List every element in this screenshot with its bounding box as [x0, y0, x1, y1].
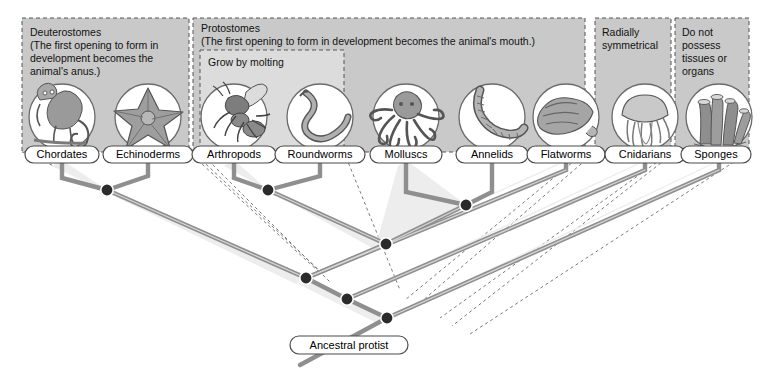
taxon-label-text: Sponges [694, 148, 738, 160]
taxon-label-text: Chordates [37, 148, 88, 160]
taxon-label-text: Cnidarians [619, 148, 672, 160]
taxon-label-echinoderms[interactable]: Echinoderms [103, 146, 193, 163]
taxon-label-roundworms[interactable]: Roundworms [275, 146, 365, 163]
taxon-label-text: Annelids [471, 148, 514, 160]
taxon-label-text: Flatworms [541, 148, 592, 160]
taxon-label-text: Arthropods [207, 148, 261, 160]
phylogeny-diagram: Deuterostomes (The first opening to form… [0, 0, 768, 382]
root-label-text: Ancestral protist [310, 339, 389, 351]
taxon-label-text: Echinoderms [116, 148, 181, 160]
taxon-label-flatworms[interactable]: Flatworms [527, 146, 605, 163]
taxon-label-text: Molluscs [385, 148, 428, 160]
taxon-label-molluscs[interactable]: Molluscs [370, 146, 442, 163]
taxon-label-arthropods[interactable]: Arthropods [192, 146, 276, 163]
taxon-label-chordates[interactable]: Chordates [25, 146, 99, 163]
root-label-ancestral-protist[interactable]: Ancestral protist [290, 336, 408, 354]
taxon-label-annelids[interactable]: Annelids [456, 146, 528, 163]
taxon-label-cnidarians[interactable]: Cnidarians [605, 146, 685, 163]
taxon-labels-layer: Chordates Echinoderms Arthropods Roundwo… [0, 0, 768, 382]
taxon-label-sponges[interactable]: Sponges [681, 146, 751, 163]
taxon-label-text: Roundworms [288, 148, 353, 160]
